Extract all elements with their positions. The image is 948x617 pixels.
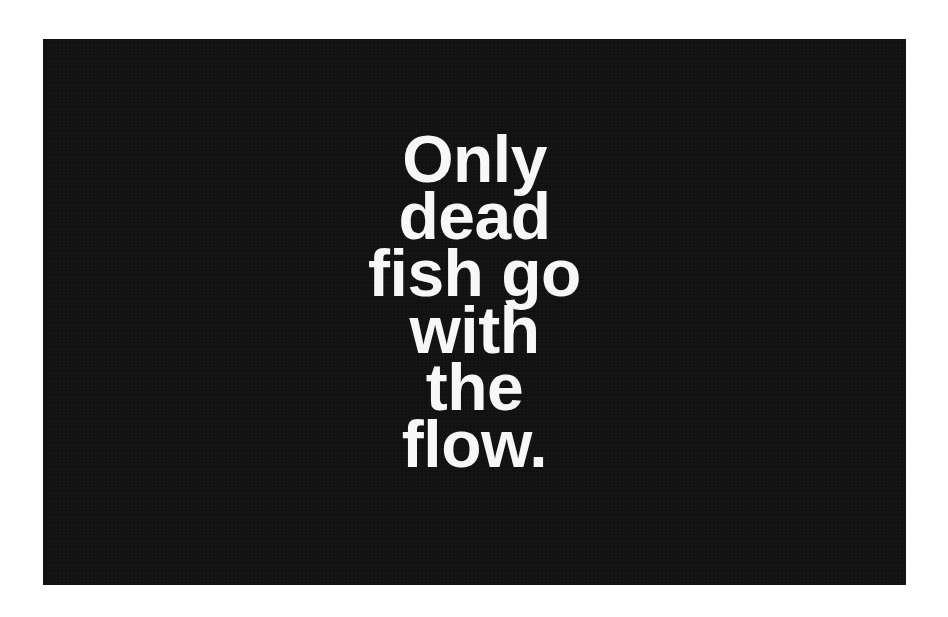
page-canvas: Only dead fish go with the flow.: [0, 0, 948, 617]
quote-text: Only dead fish go with the flow.: [43, 131, 906, 473]
quote-poster: Only dead fish go with the flow.: [43, 39, 906, 585]
quote-line-6: flow.: [43, 416, 906, 473]
